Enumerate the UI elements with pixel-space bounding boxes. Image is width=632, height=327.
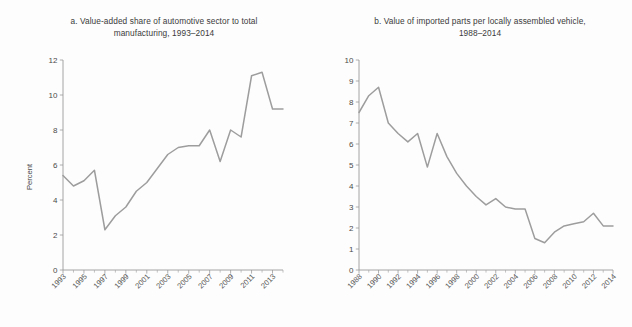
x-tick-label: 2011 [239, 272, 257, 290]
y-tick-label: 10 [49, 91, 58, 100]
x-tick-label: 1990 [365, 272, 383, 290]
y-tick-label: 1 [349, 245, 354, 254]
y-tick-label: 0 [53, 266, 58, 275]
x-tick-label: 1996 [424, 272, 442, 290]
panel-a: a. Value-added share of automotive secto… [0, 0, 316, 327]
y-tick-label: 5 [349, 161, 354, 170]
x-tick-label: 2000 [463, 272, 481, 290]
x-tick-label: 2013 [259, 272, 277, 290]
x-tick-label: 2006 [521, 272, 539, 290]
x-tick-label: 2003 [154, 272, 172, 290]
y-tick-label: 6 [349, 140, 354, 149]
y-tick-label: 4 [349, 182, 354, 191]
figure-container: a. Value-added share of automotive secto… [0, 0, 632, 327]
y-tick-label: 8 [349, 98, 354, 107]
y-tick-label: 8 [53, 126, 58, 135]
x-tick-label: 2007 [196, 272, 214, 290]
x-tick-label: 1999 [112, 272, 130, 290]
x-tick-label: 2008 [541, 272, 559, 290]
y-tick-label: 2 [53, 231, 58, 240]
x-tick-label: 1998 [443, 272, 461, 290]
x-tick-label: 1995 [71, 272, 89, 290]
panel-a-plot: 0246810121993199519971999200120032005200… [0, 0, 316, 327]
y-tick-label: 2 [349, 224, 354, 233]
data-series-line [359, 87, 613, 242]
x-tick-label: 2012 [580, 272, 598, 290]
y-tick-label: 7 [349, 119, 354, 128]
panel-b-plot: 0123456789101988199019921994199619982000… [316, 0, 632, 327]
data-series-line [63, 72, 283, 230]
x-tick-label: 2004 [502, 272, 520, 290]
y-tick-label: 4 [53, 196, 58, 205]
y-tick-label: 9 [349, 77, 354, 86]
panel-b: b. Value of imported parts per locally a… [316, 0, 632, 327]
y-tick-label: 12 [49, 56, 58, 65]
x-tick-label: 2009 [217, 272, 235, 290]
x-tick-label: 2005 [175, 272, 193, 290]
y-tick-label: 0 [349, 266, 354, 275]
x-tick-label: 2002 [482, 272, 500, 290]
y-tick-label: 6 [53, 161, 58, 170]
y-tick-label: 10 [345, 56, 354, 65]
x-tick-label: 2010 [561, 272, 579, 290]
y-tick-label: 3 [349, 203, 354, 212]
x-tick-label: 1994 [404, 272, 422, 290]
x-tick-label: 2014 [600, 272, 618, 290]
x-tick-label: 1992 [385, 272, 403, 290]
x-tick-label: 1997 [92, 272, 110, 290]
x-tick-label: 2001 [133, 272, 151, 290]
